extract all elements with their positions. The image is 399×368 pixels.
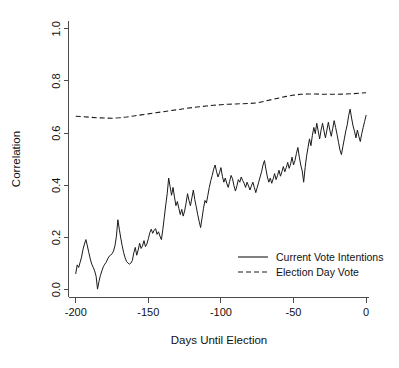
legend: Current Vote Intentions Election Day Vot… xyxy=(238,251,383,278)
y-tick-label: 0.6 xyxy=(50,126,62,141)
x-axis-title: Days Until Election xyxy=(171,334,268,346)
x-tick-label: -50 xyxy=(286,306,302,318)
y-tick-label: 0.4 xyxy=(50,178,62,193)
y-tick-labels: 0.00.20.40.60.81.0 xyxy=(50,21,62,297)
x-tick-label: 0 xyxy=(363,306,369,318)
x-tick-marks xyxy=(76,298,366,303)
y-tick-label: 0.2 xyxy=(50,230,62,245)
legend-label-current-vote-intentions: Current Vote Intentions xyxy=(276,251,383,263)
x-tick-label: -150 xyxy=(137,306,159,318)
correlation-line-chart: 0.00.20.40.60.81.0 Correlation -200-150-… xyxy=(0,0,399,368)
x-tick-label: -200 xyxy=(65,306,87,318)
series-election-day-vote xyxy=(76,93,366,119)
y-tick-marks xyxy=(64,29,69,290)
y-tick-label: 0.8 xyxy=(50,73,62,88)
legend-label-election-day-vote: Election Day Vote xyxy=(276,266,359,278)
y-axis: 0.00.20.40.60.81.0 Correlation xyxy=(10,21,69,297)
x-tick-label: -100 xyxy=(210,306,232,318)
y-tick-label: 0.0 xyxy=(50,282,62,297)
x-axis: -200-150-100-500 Days Until Election xyxy=(65,298,369,347)
chart-figure: 0.00.20.40.60.81.0 Correlation -200-150-… xyxy=(0,0,399,368)
x-tick-labels: -200-150-100-500 xyxy=(65,306,369,318)
y-tick-label: 1.0 xyxy=(50,21,62,36)
y-axis-title: Correlation xyxy=(10,131,22,187)
